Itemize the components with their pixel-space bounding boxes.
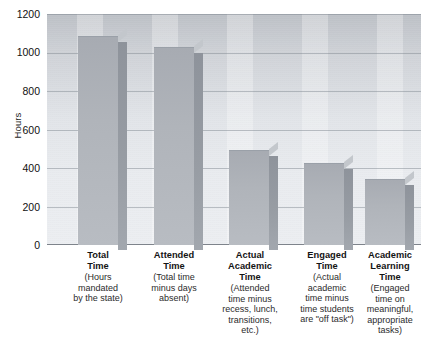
y-tick-0: 0 xyxy=(34,240,40,251)
bar-front-face xyxy=(365,179,405,245)
x-label-desc-line: time on xyxy=(351,294,429,305)
x-label-name-line: Attended xyxy=(133,250,215,261)
x-label-name-line: Learning xyxy=(351,261,429,272)
x-label-desc-line: transitions, xyxy=(208,315,292,326)
x-label-name-line: Academic xyxy=(208,261,292,272)
x-label-name-line: Actual xyxy=(208,250,292,261)
y-tick-1200: 1200 xyxy=(17,9,40,20)
x-label-desc-line: (Engaged xyxy=(351,283,429,294)
x-label-desc-line: recess, lunch, xyxy=(208,304,292,315)
x-label-academic-learning-time: Academic Learning Time (Engaged time on … xyxy=(351,250,429,336)
y-tick-200: 200 xyxy=(22,202,40,213)
x-label-desc-line: tasks) xyxy=(351,325,429,336)
bar-top-panel xyxy=(405,171,414,185)
x-label-name-line: Time xyxy=(351,272,429,283)
bar-front-face xyxy=(304,163,344,245)
bar-attended-time xyxy=(154,48,194,245)
x-axis-labels: Total Time (Hours mandated by the state)… xyxy=(47,250,421,362)
x-label-desc-line: meaningful, xyxy=(351,304,429,315)
y-tick-400: 400 xyxy=(22,163,40,174)
bar-academic-learning-time xyxy=(365,180,405,245)
bar-actual-academic-time xyxy=(229,151,269,245)
bar-side-panel xyxy=(405,185,414,250)
bar-top-panel xyxy=(269,142,278,156)
y-tick-600: 600 xyxy=(22,125,40,136)
bar-chart: Hours 1200 1000 800 600 400 200 0 xyxy=(0,0,431,364)
bar-total-time xyxy=(78,37,118,245)
y-tick-800: 800 xyxy=(22,86,40,97)
x-label-attended-time: Attended Time (Total time minus days abs… xyxy=(133,250,215,304)
bar-side-panel xyxy=(118,42,127,250)
x-label-desc-line: minus days xyxy=(133,283,215,294)
x-label-desc-line: absent) xyxy=(133,293,215,304)
x-label-name-line: Time xyxy=(133,261,215,272)
x-label-desc-line: (Hours xyxy=(57,272,139,283)
bar-top-panel xyxy=(344,155,353,169)
x-label-name-line: Time xyxy=(208,272,292,283)
x-label-desc-line: time minus xyxy=(208,294,292,305)
x-label-name-line: Time xyxy=(57,261,139,272)
plot-area xyxy=(47,14,421,245)
x-label-desc-line: etc.) xyxy=(208,325,292,336)
bar-series xyxy=(47,14,421,245)
bar-front-face xyxy=(154,47,194,245)
bar-front-face xyxy=(78,36,118,245)
bar-top-panel xyxy=(194,39,203,53)
bar-engaged-time xyxy=(304,164,344,245)
y-axis-tick-labels: 1200 1000 800 600 400 200 0 xyxy=(0,0,44,260)
x-label-desc-line: by the state) xyxy=(57,293,139,304)
bar-front-face xyxy=(229,150,269,245)
bar-side-panel xyxy=(344,169,353,250)
y-tick-1000: 1000 xyxy=(17,47,40,58)
bar-top-panel xyxy=(118,28,127,42)
x-label-name-line: Total xyxy=(57,250,139,261)
x-label-desc-line: (Attended xyxy=(208,283,292,294)
x-label-desc-line: (Total time xyxy=(133,272,215,283)
bar-side-panel xyxy=(269,156,278,250)
bar-side-panel xyxy=(194,53,203,250)
x-label-name-line: Academic xyxy=(351,250,429,261)
x-label-total-time: Total Time (Hours mandated by the state) xyxy=(57,250,139,304)
x-label-desc-line: mandated xyxy=(57,283,139,294)
x-label-desc-line: appropriate xyxy=(351,315,429,326)
x-label-actual-academic-time: Actual Academic Time (Attended time minu… xyxy=(208,250,292,336)
